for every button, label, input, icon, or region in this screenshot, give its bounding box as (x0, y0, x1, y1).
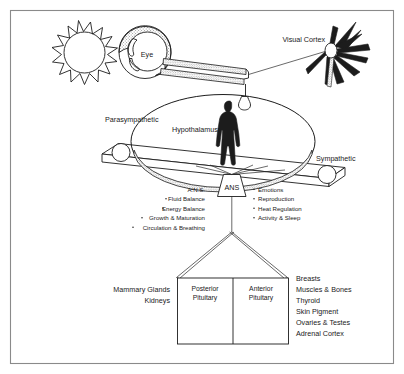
anterior-target-4: Ovaries & Testes (296, 318, 351, 327)
left-function-4: Circulation & Breathing (143, 224, 205, 231)
left-function-list: A.N.S. Fluid Balance Energy Balance Grow… (132, 186, 205, 231)
left-function-3: Growth & Maturation (149, 214, 205, 221)
posterior-pituitary-line1: Posterior (191, 285, 219, 292)
anterior-target-3: Skin Pigment (296, 307, 338, 316)
bullet-dot (253, 208, 255, 210)
optic-nerve-icon (161, 59, 249, 97)
left-weight-icon (112, 144, 130, 162)
diagram-canvas: Eye (0, 0, 404, 374)
hypothalamus-label: Hypothalamus (172, 125, 218, 134)
bullet-dot (162, 208, 164, 210)
anterior-target-0: Breasts (296, 274, 321, 283)
posterior-target-list: Mammary Glands Kidneys (113, 285, 170, 305)
bullet-dot (253, 217, 255, 219)
right-function-3: Activity & Sleep (258, 214, 301, 221)
bullet-dot (253, 189, 255, 191)
pituitary-box: Posterior Pituitary Anterior Pituitary (178, 278, 289, 344)
sympathetic-label: Sympathetic (316, 154, 356, 163)
right-function-list: Emotions Reproduction Heat Regulation Ac… (253, 186, 301, 222)
left-function-0: A.N.S. (187, 186, 205, 193)
bullet-dot (132, 227, 134, 229)
bullet-dot (253, 198, 255, 200)
right-weight-icon (318, 166, 336, 184)
ans-label: ANS (224, 183, 239, 192)
anterior-target-2: Thyroid (296, 296, 320, 305)
bullet-dot (141, 217, 143, 219)
parasympathetic-label: Parasympathetic (105, 115, 159, 124)
sun-icon (52, 21, 118, 85)
posterior-target-1: Kidneys (144, 296, 170, 305)
eye-label: Eye (141, 50, 153, 59)
posterior-target-0: Mammary Glands (113, 285, 170, 294)
left-function-2: Energy Balance (162, 205, 206, 212)
pituitary-bulb-icon (239, 97, 251, 111)
bullet-dot (191, 189, 193, 191)
anterior-target-5: Adrenal Cortex (296, 329, 344, 338)
hypothalamus-diagram: Eye (0, 0, 404, 374)
anterior-pituitary-line1: Anterior (249, 285, 274, 292)
posterior-pituitary-line2: Pituitary (193, 294, 218, 302)
anterior-target-list: Breasts Muscles & Bones Thyroid Skin Pig… (296, 274, 352, 338)
bullet-dot (165, 198, 167, 200)
right-function-1: Reproduction (258, 195, 294, 202)
right-function-0: Emotions (258, 186, 283, 193)
anterior-pituitary-line2: Pituitary (249, 294, 274, 302)
visual-cortex-label: Visual Cortex (282, 35, 325, 44)
left-function-1: Fluid Balance (168, 195, 206, 202)
anterior-target-1: Muscles & Bones (296, 285, 352, 294)
right-function-2: Heat Regulation (258, 205, 302, 212)
ans-pedestal: ANS (218, 175, 247, 197)
